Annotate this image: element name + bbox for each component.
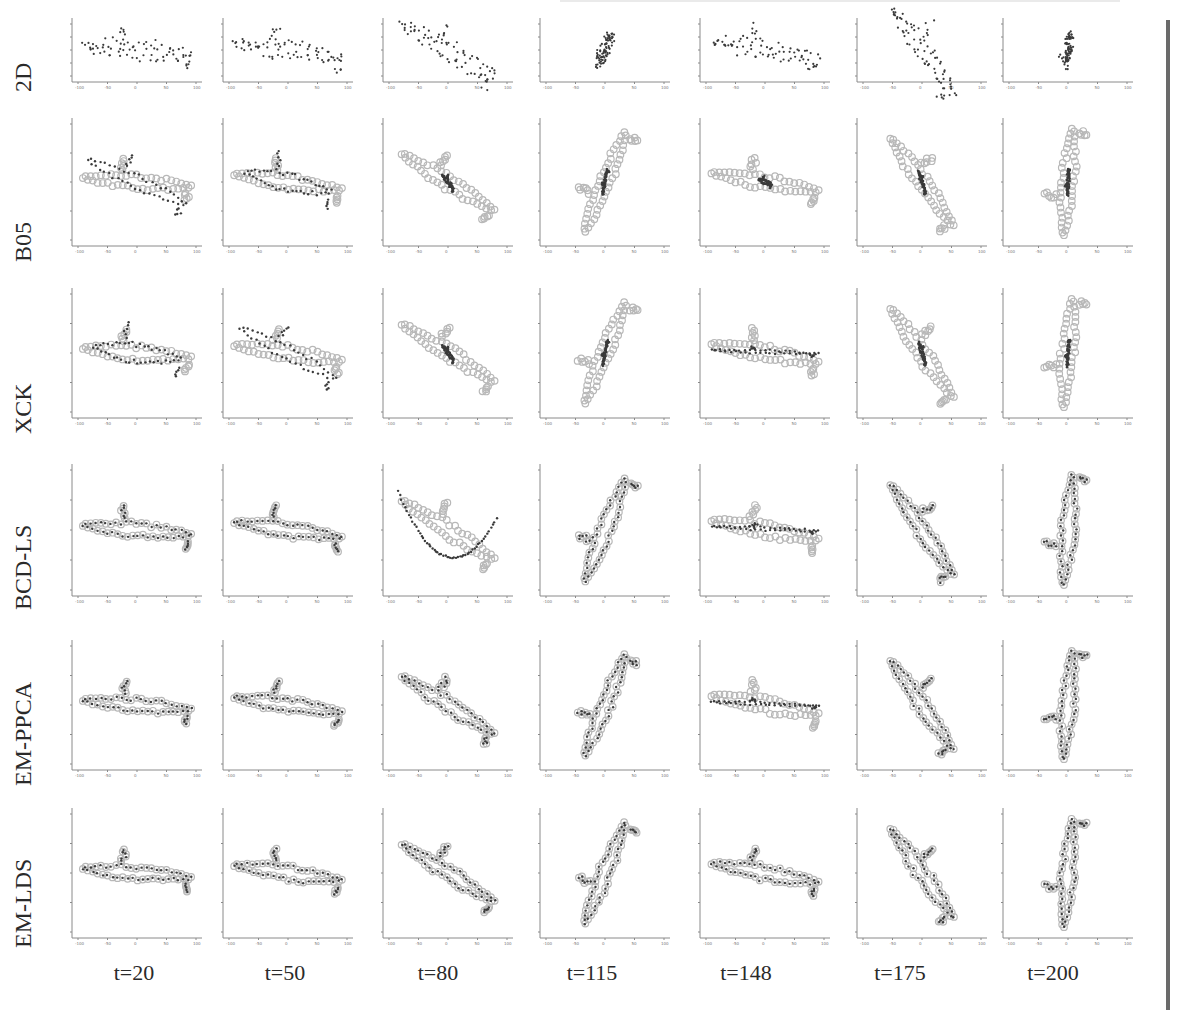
svg-text:100: 100 xyxy=(193,941,201,946)
scatter-panel-em-ppca-t175: -100-50050100 xyxy=(849,640,989,784)
svg-text:100: 100 xyxy=(661,599,669,604)
svg-text:50: 50 xyxy=(475,941,481,946)
svg-text:100: 100 xyxy=(821,773,829,778)
scatter-panel-bcd-ls-t80: -100-50050100 xyxy=(375,464,515,610)
svg-text:0: 0 xyxy=(445,599,448,604)
svg-text:-100: -100 xyxy=(703,773,713,778)
row-label-em-ppca: EM-PPCA xyxy=(10,682,37,786)
svg-text:-50: -50 xyxy=(256,249,263,254)
svg-text:0: 0 xyxy=(134,773,137,778)
svg-text:-50: -50 xyxy=(890,421,897,426)
svg-text:50: 50 xyxy=(792,85,798,90)
svg-text:-100: -100 xyxy=(386,85,396,90)
svg-text:100: 100 xyxy=(821,249,829,254)
svg-text:-50: -50 xyxy=(105,773,112,778)
svg-text:0: 0 xyxy=(602,85,605,90)
svg-text:50: 50 xyxy=(1095,773,1101,778)
svg-text:50: 50 xyxy=(164,773,170,778)
svg-text:0: 0 xyxy=(919,85,922,90)
svg-text:0: 0 xyxy=(1065,941,1068,946)
scatter-panel-bcd-ls-t50: -100-50050100 xyxy=(215,464,355,610)
svg-text:-50: -50 xyxy=(733,421,740,426)
svg-text:50: 50 xyxy=(315,85,321,90)
svg-text:0: 0 xyxy=(134,421,137,426)
svg-text:-100: -100 xyxy=(226,249,236,254)
svg-text:50: 50 xyxy=(632,249,638,254)
scatter-panel-em-ppca-t50: -100-50050100 xyxy=(215,640,355,784)
col-label-t50: t=50 xyxy=(225,960,345,986)
svg-text:50: 50 xyxy=(475,249,481,254)
svg-text:50: 50 xyxy=(792,421,798,426)
svg-text:-100: -100 xyxy=(386,773,396,778)
scatter-panel-xck-t80: -100-50050100 xyxy=(375,288,515,432)
svg-text:50: 50 xyxy=(315,421,321,426)
svg-text:-100: -100 xyxy=(75,421,85,426)
svg-text:100: 100 xyxy=(821,421,829,426)
svg-text:-100: -100 xyxy=(860,249,870,254)
svg-text:-50: -50 xyxy=(1036,421,1043,426)
scatter-panel-em-lds-t115: -100-50050100 xyxy=(532,808,672,952)
col-label-t175: t=175 xyxy=(840,960,960,986)
svg-text:0: 0 xyxy=(1065,773,1068,778)
scatter-panel-b05-t80: -100-50050100 xyxy=(375,118,515,260)
svg-text:50: 50 xyxy=(164,85,170,90)
svg-text:100: 100 xyxy=(504,599,512,604)
svg-text:100: 100 xyxy=(661,773,669,778)
svg-text:50: 50 xyxy=(315,249,321,254)
svg-text:100: 100 xyxy=(344,773,352,778)
svg-text:-50: -50 xyxy=(416,599,423,604)
svg-text:-100: -100 xyxy=(543,421,553,426)
svg-text:50: 50 xyxy=(949,249,955,254)
svg-text:50: 50 xyxy=(315,599,321,604)
svg-text:-50: -50 xyxy=(256,421,263,426)
svg-text:100: 100 xyxy=(978,85,986,90)
svg-text:0: 0 xyxy=(445,773,448,778)
svg-text:0: 0 xyxy=(919,599,922,604)
svg-text:50: 50 xyxy=(1095,85,1101,90)
svg-text:0: 0 xyxy=(1065,85,1068,90)
svg-text:0: 0 xyxy=(1065,421,1068,426)
svg-text:0: 0 xyxy=(445,249,448,254)
svg-text:0: 0 xyxy=(285,85,288,90)
row-label-2d: 2D xyxy=(10,63,37,92)
svg-text:50: 50 xyxy=(792,773,798,778)
svg-text:-100: -100 xyxy=(75,773,85,778)
col-label-t20: t=20 xyxy=(74,960,194,986)
svg-text:0: 0 xyxy=(285,249,288,254)
svg-text:-100: -100 xyxy=(386,421,396,426)
svg-text:100: 100 xyxy=(193,85,201,90)
svg-text:50: 50 xyxy=(164,941,170,946)
scatter-panel-em-lds-t200: -100-50050100 xyxy=(995,808,1135,952)
row-label-b05: B05 xyxy=(10,222,37,262)
svg-text:-50: -50 xyxy=(256,773,263,778)
svg-text:-50: -50 xyxy=(733,941,740,946)
scatter-panel-xck-t20: -100-50050100 xyxy=(64,288,204,432)
svg-text:100: 100 xyxy=(978,599,986,604)
scatter-panel-em-lds-t80: -100-50050100 xyxy=(375,808,515,952)
svg-text:-100: -100 xyxy=(703,85,713,90)
svg-text:-100: -100 xyxy=(543,85,553,90)
svg-text:0: 0 xyxy=(134,941,137,946)
svg-text:-50: -50 xyxy=(733,85,740,90)
svg-text:100: 100 xyxy=(504,85,512,90)
svg-text:-50: -50 xyxy=(573,941,580,946)
svg-text:100: 100 xyxy=(193,773,201,778)
svg-text:-50: -50 xyxy=(105,249,112,254)
svg-text:50: 50 xyxy=(164,421,170,426)
svg-text:0: 0 xyxy=(762,599,765,604)
svg-text:-100: -100 xyxy=(1006,249,1016,254)
svg-text:50: 50 xyxy=(475,421,481,426)
svg-text:0: 0 xyxy=(285,773,288,778)
svg-text:0: 0 xyxy=(762,249,765,254)
svg-text:-100: -100 xyxy=(543,773,553,778)
svg-text:100: 100 xyxy=(661,941,669,946)
svg-text:50: 50 xyxy=(632,421,638,426)
svg-text:100: 100 xyxy=(1124,421,1132,426)
svg-text:50: 50 xyxy=(475,773,481,778)
scatter-panel-b05-t175: -100-50050100 xyxy=(849,118,989,260)
svg-text:-100: -100 xyxy=(75,249,85,254)
scatter-panel-em-ppca-t148: -100-50050100 xyxy=(692,640,832,784)
svg-text:0: 0 xyxy=(919,421,922,426)
svg-text:100: 100 xyxy=(344,85,352,90)
scatter-panel-em-ppca-t80: -100-50050100 xyxy=(375,640,515,784)
